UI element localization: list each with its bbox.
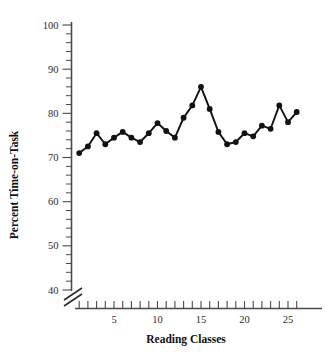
data-line-series	[79, 87, 297, 153]
y-tick-label: 40	[48, 285, 59, 296]
data-point	[76, 150, 82, 156]
data-point	[233, 139, 239, 145]
y-tick-label: 90	[48, 64, 59, 75]
data-point	[155, 120, 161, 126]
data-point	[111, 135, 117, 141]
data-point	[163, 128, 169, 134]
data-point	[85, 144, 91, 150]
data-point	[294, 109, 300, 115]
y-axis-title: Percent Time-on-Task	[8, 130, 20, 239]
x-tick-label: 25	[283, 314, 294, 325]
data-point	[276, 102, 282, 108]
data-point	[242, 130, 248, 136]
data-point	[250, 133, 256, 139]
x-axis-tick-labels: 510152025	[111, 314, 293, 325]
data-point	[120, 129, 126, 135]
x-axis-ticks	[79, 301, 297, 309]
data-point	[94, 130, 100, 136]
x-tick-label: 5	[111, 314, 116, 325]
y-tick-label: 80	[48, 108, 59, 119]
y-axis-tick-labels: 405060708090100	[43, 20, 59, 296]
data-point	[207, 106, 213, 112]
data-point	[224, 141, 230, 147]
data-point	[259, 123, 265, 129]
data-point	[129, 135, 135, 141]
data-point-markers	[76, 84, 299, 156]
data-point	[172, 135, 178, 141]
y-tick-label: 50	[48, 240, 59, 251]
y-axis-ticks	[63, 25, 72, 290]
x-tick-label: 15	[196, 314, 207, 325]
x-axis-title: Reading Classes	[146, 333, 226, 346]
line-chart: Percent Time-on-Task Reading Classes 405…	[0, 0, 327, 353]
data-point	[268, 126, 274, 132]
data-point	[216, 129, 222, 135]
data-point	[198, 84, 204, 90]
data-point	[285, 119, 291, 125]
data-point	[146, 130, 152, 136]
data-point	[189, 102, 195, 108]
data-point	[137, 139, 143, 145]
x-tick-label: 10	[152, 314, 163, 325]
y-tick-label: 70	[48, 152, 59, 163]
x-tick-label: 20	[239, 314, 250, 325]
y-tick-label: 100	[43, 20, 59, 31]
data-point	[102, 141, 108, 147]
data-point	[181, 115, 187, 121]
y-tick-label: 60	[48, 196, 59, 207]
chart-container: Percent Time-on-Task Reading Classes 405…	[0, 0, 327, 353]
